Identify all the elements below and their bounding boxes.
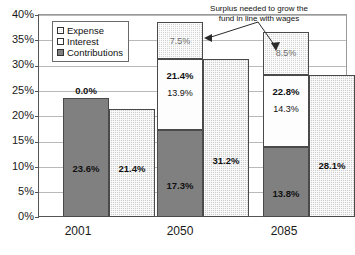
y-tickmark-5 [35, 192, 39, 193]
chart-legend: Expense Interest Contributions [52, 21, 129, 62]
annotation-arrows [186, 12, 296, 62]
legend-label-interest: Interest [67, 36, 99, 47]
bar-2050-contributions[interactable] [157, 130, 203, 217]
bar-2085-expense[interactable] [309, 75, 355, 217]
bar-label-2085-expense: 28.1% [309, 160, 355, 171]
bar-label-2085-contributions: 13.8% [263, 188, 309, 199]
legend-label-expense: Expense [67, 25, 104, 36]
bar-label-2001-total: 0.0% [63, 85, 109, 96]
bar-2050-expense[interactable] [203, 59, 249, 217]
legend-label-contributions: Contributions [67, 47, 123, 58]
y-axis-tick-20: 20% [2, 109, 34, 121]
y-axis-tick-35: 35% [2, 33, 34, 45]
y-tickmark-30 [35, 66, 39, 67]
y-tickmark-35 [35, 40, 39, 41]
y-axis-tick-0: 0% [2, 210, 34, 222]
legend-swatch-expense-icon [57, 27, 64, 34]
y-axis-tick-15: 15% [2, 134, 34, 146]
bar-label-2050-contributions: 17.3% [157, 180, 203, 191]
legend-swatch-interest-icon [57, 38, 64, 45]
bar-label-2001-expense: 21.4% [109, 163, 155, 174]
y-tickmark-40 [35, 15, 39, 16]
y-tickmark-15 [35, 142, 39, 143]
bar-label-2050-expense: 31.2% [203, 155, 249, 166]
y-axis-tick-25: 25% [2, 84, 34, 96]
legend-swatch-contributions-icon [57, 49, 64, 56]
bar-2001-contributions[interactable] [63, 98, 109, 217]
legend-item-expense[interactable]: Expense [57, 25, 123, 36]
bar-label-2050-total: 21.4% [157, 70, 203, 81]
bar-label-2085-total: 22.8% [263, 86, 309, 97]
y-tickmark-20 [35, 116, 39, 117]
y-axis-tick-5: 5% [2, 185, 34, 197]
legend-item-contributions[interactable]: Contributions [57, 47, 123, 58]
bar-2085-contributions[interactable] [263, 147, 309, 217]
legend-item-interest[interactable]: Interest [57, 36, 123, 47]
bar-label-2085-interest: 14.3% [263, 104, 309, 114]
bar-label-2001-contributions: 23.6% [63, 163, 109, 174]
y-tickmark-10 [35, 167, 39, 168]
y-tickmark-0 [35, 217, 39, 218]
x-axis-label-2050: 2050 [150, 224, 210, 238]
x-axis-label-2085: 2085 [254, 224, 314, 238]
y-axis-tick-40: 40% [2, 8, 34, 20]
x-axis-label-2001: 2001 [48, 224, 108, 238]
y-axis-tick-10: 10% [2, 160, 34, 172]
y-axis-tick-30: 30% [2, 58, 34, 70]
bar-label-2050-interest: 13.9% [157, 88, 203, 98]
y-tickmark-25 [35, 91, 39, 92]
